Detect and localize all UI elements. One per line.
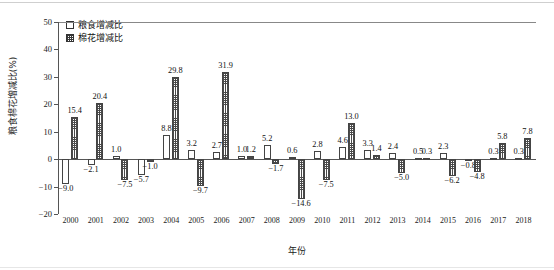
x-tick-label: 2003 (133, 216, 158, 225)
bar-grain[interactable] (490, 158, 497, 160)
bar-cotton[interactable] (298, 159, 305, 199)
x-tick-label: 2013 (385, 216, 410, 225)
bar-group: 3.31.4 (360, 22, 385, 214)
bar-cotton[interactable] (398, 159, 405, 173)
x-axis-title: 年份 (58, 244, 536, 257)
bar-group: −5.7−1.0 (133, 22, 158, 214)
bar-group: 0.35.8 (486, 22, 511, 214)
bar-grain[interactable] (113, 156, 120, 159)
x-tick-label: 2014 (410, 216, 435, 225)
bar-cotton[interactable] (323, 159, 330, 180)
bar-group: 2.731.9 (209, 22, 234, 214)
bar-group: 1.01.2 (234, 22, 259, 214)
bar-value-label: −2.1 (78, 166, 104, 174)
bar-group: 0.37.8 (511, 22, 536, 214)
bar-cotton[interactable] (423, 158, 430, 160)
bar-grain[interactable] (289, 157, 296, 159)
bar-value-label: 7.8 (514, 128, 540, 136)
bar-grain[interactable] (238, 156, 245, 159)
bar-chart: 粮食棉花增减比(%) 粮食增减比 棉花增减比 50403020100−10−20… (0, 0, 554, 270)
x-tick-label: 2012 (360, 216, 385, 225)
bar-group: −2.120.4 (83, 22, 108, 214)
bar-groups: −9.015.4−2.120.41.0−7.5−5.7−1.08.829.83.… (58, 22, 536, 214)
bar-cotton[interactable] (373, 155, 380, 159)
bar-group: 0.50.3 (410, 22, 435, 214)
bar-grain[interactable] (163, 135, 170, 159)
x-tick-label: 2006 (209, 216, 234, 225)
bar-group: −9.015.4 (58, 22, 83, 214)
x-tick-label: 2004 (159, 216, 184, 225)
bar-grain[interactable] (213, 152, 220, 159)
y-tick-label: 20 (26, 100, 52, 109)
y-tick-label: −20 (26, 210, 52, 219)
bar-grain[interactable] (188, 150, 195, 159)
bar-grain[interactable] (62, 159, 69, 184)
bar-cotton[interactable] (474, 159, 481, 172)
x-tick-label: 2017 (486, 216, 511, 225)
bar-group: 8.829.8 (159, 22, 184, 214)
x-tick-label: 2011 (335, 216, 360, 225)
bottom-divider (0, 267, 554, 268)
y-tick-label: 0 (26, 155, 52, 164)
bar-group: 5.2−1.7 (259, 22, 284, 214)
bar-value-label: 0.6 (279, 147, 305, 155)
y-tick-label: 50 (26, 18, 52, 27)
x-axis-ticks: 2000200120022003200420052006200720082009… (58, 216, 536, 225)
bar-group: 2.8−7.5 (310, 22, 335, 214)
plot-area: 50403020100−10−20 −9.015.4−2.120.41.0−7.… (58, 22, 536, 214)
top-divider (0, 2, 554, 3)
x-tick-label: 2005 (184, 216, 209, 225)
bar-grain[interactable] (314, 151, 321, 159)
bar-value-label: −5.7 (128, 176, 154, 184)
bar-cotton[interactable] (197, 159, 204, 186)
bar-value-label: 3.2 (179, 140, 205, 148)
bar-group: 1.0−7.5 (108, 22, 133, 214)
y-tick-mark (54, 214, 58, 215)
bar-value-label: 2.4 (380, 143, 406, 151)
bar-grain[interactable] (389, 153, 396, 160)
bar-group: 2.3−6.2 (435, 22, 460, 214)
bar-grain[interactable] (264, 145, 271, 159)
y-tick-label: 10 (26, 127, 52, 136)
x-tick-label: 2015 (435, 216, 460, 225)
y-tick-label: −10 (26, 182, 52, 191)
x-tick-label: 2016 (461, 216, 486, 225)
bar-value-label: 1.0 (103, 146, 129, 154)
x-tick-label: 2009 (284, 216, 309, 225)
bar-grain[interactable] (415, 158, 422, 160)
y-tick-label: 40 (26, 45, 52, 54)
x-tick-label: 2000 (58, 216, 83, 225)
bar-grain[interactable] (515, 158, 522, 160)
bar-cotton[interactable] (524, 138, 531, 159)
x-tick-label: 2008 (259, 216, 284, 225)
x-tick-label: 2018 (511, 216, 536, 225)
bar-value-label: 2.3 (430, 143, 456, 151)
bar-value-label: 5.2 (254, 135, 280, 143)
x-tick-label: 2002 (108, 216, 133, 225)
bar-value-label: −9.0 (53, 185, 79, 193)
x-tick-label: 2010 (310, 216, 335, 225)
bar-value-label: 2.8 (304, 141, 330, 149)
bar-grain[interactable] (339, 147, 346, 160)
x-tick-label: 2001 (83, 216, 108, 225)
y-tick-label: 30 (26, 73, 52, 82)
bar-group: 3.2−9.7 (184, 22, 209, 214)
bar-cotton[interactable] (71, 117, 78, 159)
x-tick-label: 2007 (234, 216, 259, 225)
bar-cotton[interactable] (247, 156, 254, 159)
bar-group: 4.613.0 (335, 22, 360, 214)
bar-grain[interactable] (440, 153, 447, 159)
y-axis-title: 粮食棉花增减比(%) (6, 57, 19, 136)
bar-group: −0.8−4.8 (461, 22, 486, 214)
bar-group: 0.6−14.6 (284, 22, 309, 214)
bar-group: 2.4−5.0 (385, 22, 410, 214)
